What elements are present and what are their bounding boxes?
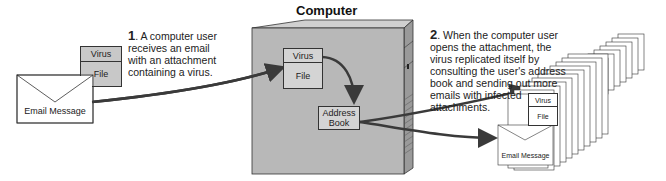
left-email-label: Email Message [17,106,93,116]
left-envelope-flap-icon [0,0,666,181]
